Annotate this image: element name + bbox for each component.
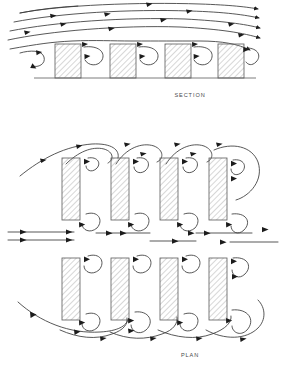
plan-vortex-mid-2 (131, 213, 149, 231)
section-building-2 (110, 44, 136, 78)
plan-building-r1c4 (209, 158, 227, 220)
plan-building-r1c2 (111, 158, 129, 220)
section-streamlines (8, 3, 260, 50)
section-building-4 (218, 44, 244, 78)
section-building-3 (165, 44, 191, 78)
plan-vortex-mid-4 (231, 214, 248, 233)
plan-vortex-r1-1 (86, 158, 99, 171)
vortex-4-lee (246, 48, 259, 65)
streamline-upper-1 (20, 3, 258, 13)
airflow-diagram: SECTION (0, 0, 285, 371)
plan-building-r2c1 (62, 258, 80, 320)
section-caption: SECTION (174, 92, 205, 98)
plan-vortex-r1-2 (134, 158, 148, 173)
plan-building-r1c1 (62, 158, 80, 220)
plan-building-r2c4 (209, 258, 227, 320)
plan-vortex-lee-1 (82, 313, 100, 331)
section-building-1 (55, 44, 81, 78)
plan-vortex-lee-2 (131, 312, 150, 333)
diagram-canvas: SECTION (0, 0, 285, 371)
plan-building-r2c3 (160, 258, 178, 320)
plan-building-r1c3 (160, 158, 178, 220)
plan-view: PLAN (8, 143, 278, 358)
plan-buildings-row-2 (62, 258, 227, 320)
plan-building-r2c2 (111, 258, 129, 320)
plan-caption: PLAN (181, 352, 199, 358)
plan-vortex-lee-3 (180, 313, 198, 331)
streamline-upper-3 (10, 19, 260, 31)
plan-vortex-mid-3 (180, 213, 198, 231)
plan-vortex-lee-4 (232, 310, 251, 334)
plan-vortex-mid-1 (82, 213, 100, 231)
streamline-upper-4 (8, 27, 260, 40)
plan-buildings-row-1 (62, 158, 227, 220)
plan-vortex-r1-3 (183, 158, 197, 173)
section-buildings (55, 44, 244, 78)
section-view: SECTION (8, 3, 260, 98)
